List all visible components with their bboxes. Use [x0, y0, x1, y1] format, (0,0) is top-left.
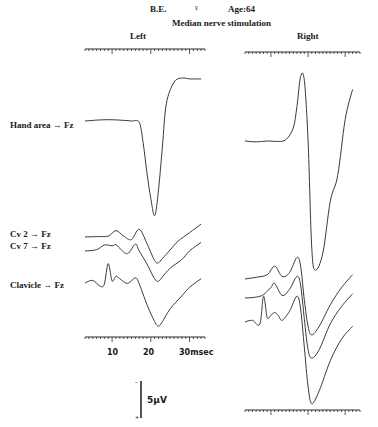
left-trace-clavicle	[85, 264, 201, 326]
left-trace-cv7	[85, 242, 201, 281]
evoked-potential-plot	[0, 0, 378, 427]
left-trace-hand-area	[85, 78, 201, 216]
right-trace-clavicle	[245, 296, 353, 404]
right-trace-hand-area	[245, 73, 353, 270]
